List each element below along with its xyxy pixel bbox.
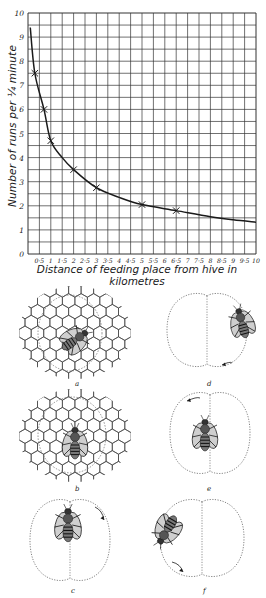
bee-b [60,423,90,459]
bee-antenna [77,423,80,428]
x-axis-label: Distance of feeding place from hive in k… [8,263,266,287]
bee-thorax [201,425,210,434]
panel-label-f: f [203,587,206,595]
bee-head [72,427,78,432]
bee-head [65,509,72,514]
panel-label-d: d [207,380,211,388]
y-axis-label: Number of runs per ¼ minute [6,36,18,216]
y-tick-label: 1 [19,226,24,235]
direction-arrow-e-head [187,398,191,402]
y-tick-label: 9 [19,33,24,42]
y-tick-label: 6 [19,105,24,114]
dance-diagrams [0,285,266,598]
y-tick-label: 0 [19,250,24,259]
bee-antenna [158,544,163,550]
bee-e [190,415,220,451]
y-tick-label: 8 [19,57,24,66]
panel-label-a: a [75,380,79,388]
bee-antenna [87,330,92,335]
bee-head [202,419,208,424]
y-tick-label: 10 [14,9,24,18]
bee-a [54,318,98,361]
bee-thorax [71,433,80,442]
bee-thorax [63,514,72,523]
bee-antenna [238,304,242,309]
chart-plot-area: 0123456789100·511·522·533·544·555·566·57… [0,0,266,290]
bee-antenna [71,423,74,428]
panel-label-b: b [75,485,79,493]
bee-antenna [64,504,67,509]
panel-label-c: c [71,587,75,595]
bee-antenna [201,415,204,420]
runs-vs-distance-chart: 0123456789100·511·522·533·544·555·566·57… [0,0,266,290]
y-tick-label: 3 [19,178,24,187]
direction-arrow-c-head [100,516,104,520]
bee-abdomen [70,441,80,459]
y-tick-label: 7 [19,81,24,90]
y-tick-label: 2 [18,202,24,211]
panel-label-e: e [207,485,211,493]
bee-f [144,509,188,555]
y-tick-label: 4 [18,154,24,163]
y-tick-label: 5 [19,130,24,139]
bee-abdomen [200,433,210,451]
bee-c [52,504,83,542]
bee-antenna [207,415,210,420]
bee-dance-figures: a b c d e f [0,285,266,598]
bee-abdomen [63,523,73,542]
